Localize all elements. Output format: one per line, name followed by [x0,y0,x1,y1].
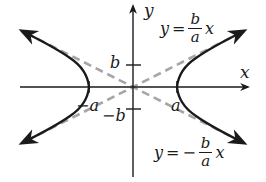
tick-label-pos-b: b [110,55,120,71]
fraction-b-over-a: b a [188,12,202,45]
eq-equals: = [172,21,185,37]
eq-lhs: y [160,21,169,37]
eq-equals: = [166,145,179,161]
y-axis-label: y [144,2,154,19]
eq-variable: x [215,145,224,161]
tick-label-pos-a: a [171,98,181,114]
tick-label-neg-a: −a [76,98,99,114]
fraction-numerator: b [188,12,202,29]
eq-sign: − [182,145,195,161]
fraction-numerator: b [199,136,213,153]
asymptote-upper-equation: y = b a x [160,12,214,45]
tick-label-neg-b: −b [102,108,126,124]
fraction-denominator: a [201,153,210,169]
asymptote-lower-equation: y = − b a x [154,136,225,169]
hyperbola-diagram [0,0,266,182]
eq-variable: x [205,21,214,37]
fraction-b-over-a: b a [199,136,213,169]
x-axis-label: x [240,64,250,81]
eq-lhs: y [154,145,163,161]
right-branch-lower [177,87,244,143]
fraction-denominator: a [191,29,200,45]
